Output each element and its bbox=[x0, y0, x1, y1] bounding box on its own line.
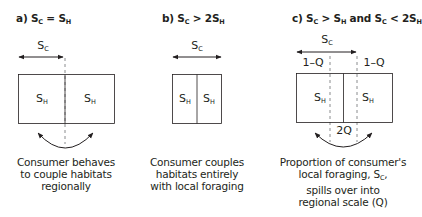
panel-b-range-label: SC bbox=[191, 39, 203, 53]
panel-c-range-label: SC bbox=[321, 33, 333, 47]
panel-c-title: c) SC > SH and SC < 2SH bbox=[292, 12, 422, 26]
panel-a-habitat-right-label: SH bbox=[84, 92, 96, 106]
panel-a-range-label: SC bbox=[37, 39, 49, 53]
panel-a-coupling-arrow bbox=[38, 133, 93, 148]
panel-a-habitat-box bbox=[19, 75, 115, 124]
panel-b-habitat-left-label: SH bbox=[179, 92, 191, 106]
panel-b-graphics bbox=[173, 57, 222, 124]
panel-c-habitat-box bbox=[297, 74, 393, 123]
panel-a-title: a) SC = SH bbox=[16, 12, 71, 26]
panel-c-habitat-left-label: SH bbox=[314, 91, 326, 105]
panel-c-q-label-right: 1–Q bbox=[363, 56, 384, 69]
panel-a-graphics bbox=[19, 57, 115, 148]
panel-a-habitat-left-label: SH bbox=[36, 92, 48, 106]
panel-c-q-label-center: 2Q bbox=[336, 124, 352, 137]
panel-a-caption: Consumer behaves to couple habitats regi… bbox=[17, 156, 115, 192]
panel-c-habitat-right-label: SH bbox=[362, 91, 374, 105]
panel-b-title: b) SC > 2SH bbox=[162, 12, 225, 26]
panel-c-caption: Proportion of consumer's local foraging,… bbox=[280, 156, 407, 208]
panel-c-q-label-left: 1–Q bbox=[302, 56, 323, 69]
panel-b-habitat-right-label: SH bbox=[203, 92, 215, 106]
panel-b-caption: Consumer couples habitats entirely with … bbox=[150, 156, 244, 192]
